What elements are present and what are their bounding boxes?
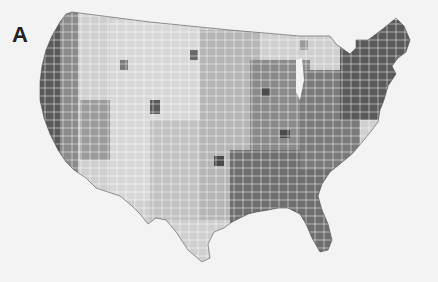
figure-panel: A xyxy=(0,0,438,282)
us-county-map xyxy=(0,0,438,282)
